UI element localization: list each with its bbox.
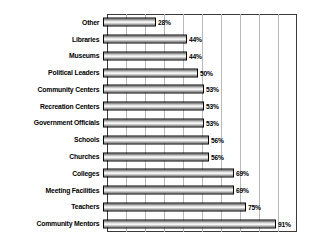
chart-row: Museums44% xyxy=(0,48,310,65)
chart-row: Schools56% xyxy=(0,131,310,148)
bar-value-label: 75% xyxy=(248,202,261,211)
chart-row: Community Centers53% xyxy=(0,81,310,98)
bar-value-label: 91% xyxy=(278,219,291,228)
category-label: Recreation Centers xyxy=(8,102,103,111)
bar-cell: 53% xyxy=(103,115,310,132)
category-label: Libraries xyxy=(8,35,103,44)
category-label: Colleges xyxy=(8,169,103,178)
category-label: Meeting Facilities xyxy=(8,186,103,195)
bar[interactable] xyxy=(103,102,204,111)
bar-chart: Other28%Libraries44%Museums44%Political … xyxy=(0,0,310,246)
category-label: Schools xyxy=(8,135,103,144)
category-label: Churches xyxy=(8,152,103,161)
chart-row: Teachers75% xyxy=(0,198,310,215)
category-label: Community Centers xyxy=(8,85,103,94)
chart-row: Meeting Facilities69% xyxy=(0,182,310,199)
chart-row: Community Mentors91% xyxy=(0,215,310,232)
bar-cell: 53% xyxy=(103,98,310,115)
bar[interactable] xyxy=(103,35,187,44)
chart-row: Colleges69% xyxy=(0,165,310,182)
bar[interactable] xyxy=(103,219,276,228)
chart-row: Libraries44% xyxy=(0,31,310,48)
chart-rows: Other28%Libraries44%Museums44%Political … xyxy=(0,14,310,232)
bar-value-label: 56% xyxy=(211,135,224,144)
category-label: Political Leaders xyxy=(8,68,103,77)
bar-cell: 91% xyxy=(103,215,310,232)
chart-row: Other28% xyxy=(0,14,310,31)
bar[interactable] xyxy=(103,135,209,144)
chart-row: Political Leaders50% xyxy=(0,64,310,81)
bar-cell: 44% xyxy=(103,48,310,65)
category-label: Government Officials xyxy=(8,118,103,127)
bar-value-label: 53% xyxy=(206,118,219,127)
bar[interactable] xyxy=(103,118,204,127)
chart-row: Recreation Centers53% xyxy=(0,98,310,115)
bar[interactable] xyxy=(103,152,209,161)
bar[interactable] xyxy=(103,18,156,27)
bar-cell: 28% xyxy=(103,14,310,31)
bar-value-label: 69% xyxy=(236,169,249,178)
bar[interactable] xyxy=(103,51,187,60)
chart-row: Government Officials53% xyxy=(0,115,310,132)
bar-value-label: 56% xyxy=(211,152,224,161)
bar[interactable] xyxy=(103,186,234,195)
bar[interactable] xyxy=(103,202,246,211)
bar-cell: 69% xyxy=(103,182,310,199)
category-label: Teachers xyxy=(8,202,103,211)
bar-cell: 44% xyxy=(103,31,310,48)
bar-value-label: 28% xyxy=(158,18,171,27)
bar-value-label: 53% xyxy=(206,102,219,111)
bar-cell: 56% xyxy=(103,131,310,148)
chart-row: Churches56% xyxy=(0,148,310,165)
bar[interactable] xyxy=(103,68,198,77)
bar-cell: 53% xyxy=(103,81,310,98)
bar-value-label: 53% xyxy=(206,85,219,94)
bar-value-label: 44% xyxy=(189,35,202,44)
bar-cell: 50% xyxy=(103,64,310,81)
bar-value-label: 44% xyxy=(189,51,202,60)
bar-cell: 75% xyxy=(103,198,310,215)
bar-cell: 69% xyxy=(103,165,310,182)
bar[interactable] xyxy=(103,169,234,178)
bar-value-label: 50% xyxy=(200,68,213,77)
category-label: Museums xyxy=(8,51,103,60)
bar-value-label: 69% xyxy=(236,186,249,195)
bar-cell: 56% xyxy=(103,148,310,165)
category-label: Community Mentors xyxy=(8,219,103,228)
category-label: Other xyxy=(8,18,103,27)
bar[interactable] xyxy=(103,85,204,94)
